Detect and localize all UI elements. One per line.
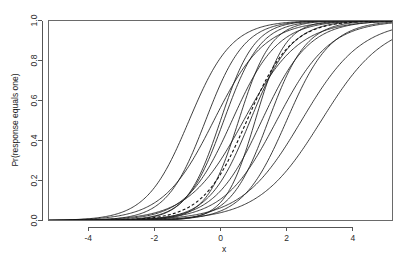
y-tick-label: 0.2 <box>29 174 39 186</box>
y-tick-label: 1.0 <box>29 14 39 26</box>
y-tick-label: 0.0 <box>29 214 39 226</box>
figure-container: -4-2024 0.00.20.40.60.81.0 x Pr(response… <box>0 0 406 272</box>
x-tick-label: 4 <box>350 233 355 243</box>
y-axis-title: Pr(response equals one) <box>10 73 20 166</box>
x-tick-label: -2 <box>151 233 159 243</box>
x-axis-title: x <box>222 244 227 254</box>
y-axis: 0.00.20.40.60.81.0 <box>29 14 42 226</box>
x-axis: -4-2024 <box>84 227 355 243</box>
x-tick-label: 0 <box>218 233 223 243</box>
x-tick-label: 2 <box>284 233 289 243</box>
x-tick-label: -4 <box>84 233 92 243</box>
logistic-curves-plot: -4-2024 0.00.20.40.60.81.0 x Pr(response… <box>0 0 406 272</box>
curves-group <box>49 21 393 221</box>
y-tick-label: 0.4 <box>29 134 39 146</box>
y-tick-label: 0.6 <box>29 94 39 106</box>
y-tick-label: 0.8 <box>29 54 39 66</box>
